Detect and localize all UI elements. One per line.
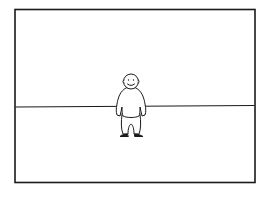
figure-ear-left [123,80,124,83]
figure-ear-right [138,80,139,83]
figure-eye-left [128,79,129,80]
figure-eye-right [133,79,134,80]
illustration [0,0,268,197]
figure-body [116,88,146,118]
drawing-canvas [0,0,268,197]
figure-head [124,74,139,89]
